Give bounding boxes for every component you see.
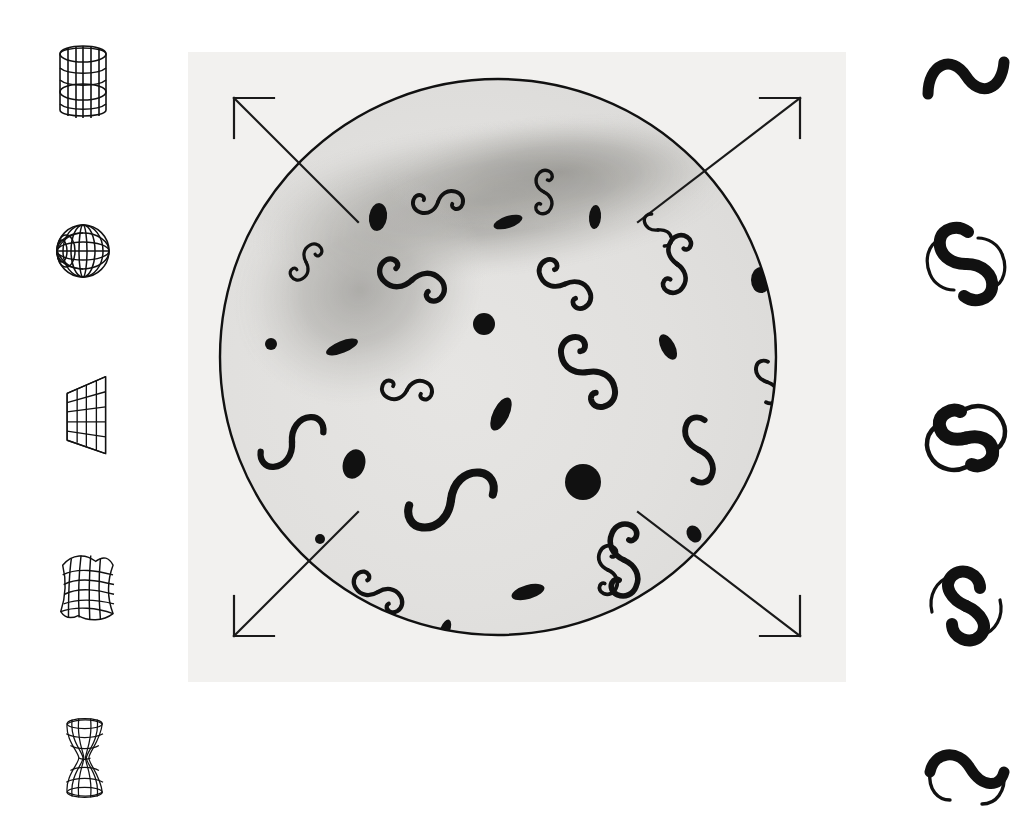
galaxy-symbol-tight bbox=[914, 392, 1019, 484]
sphere-wireframe-icon bbox=[38, 205, 128, 297]
cylinder-wireframe-icon bbox=[38, 36, 128, 128]
point-galaxy bbox=[265, 338, 277, 350]
galaxy-symbol-column bbox=[900, 0, 1031, 831]
galaxy-symbol-open bbox=[914, 738, 1019, 830]
galaxy-symbol-edge-on bbox=[914, 32, 1019, 124]
point-galaxy bbox=[473, 313, 495, 335]
expanding-universe-panel bbox=[188, 52, 846, 682]
geometry-icon-column bbox=[0, 0, 185, 831]
point-galaxy bbox=[315, 534, 325, 544]
hyperboloid-wireframe-icon bbox=[38, 712, 128, 804]
plane-grid-icon bbox=[38, 370, 128, 462]
galaxy-symbol-barred bbox=[914, 218, 1019, 310]
point-galaxy bbox=[565, 464, 601, 500]
galaxy-symbol-loose bbox=[914, 560, 1019, 652]
figure-root bbox=[0, 0, 1031, 831]
saddle-surface-icon bbox=[38, 540, 128, 632]
